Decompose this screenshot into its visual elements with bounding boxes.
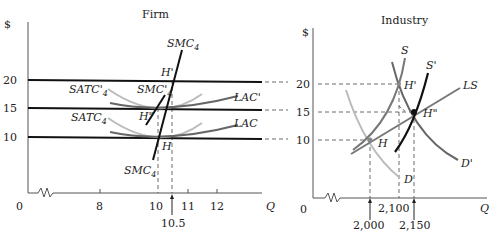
firm-y-axis-label: $ <box>4 18 11 31</box>
smc4-top-label: SMC4 <box>167 37 199 52</box>
firm-x-tick-11: 11 <box>181 200 195 213</box>
industry-y-tick-20: 20 <box>296 78 310 91</box>
point-h-dprime <box>411 109 417 115</box>
point-h <box>368 138 373 143</box>
firm-x-tick-8: 8 <box>96 200 103 213</box>
smc4-prime-label: SMC'4 <box>137 83 172 98</box>
industry-y-tick-10: 10 <box>296 134 310 147</box>
industry-y-tick-15: 15 <box>296 106 310 119</box>
industry-x-marker-2150: 2,150 <box>399 219 431 232</box>
point-h-prime <box>397 82 401 86</box>
industry-y-axis-label: $ <box>302 26 309 39</box>
d-prime-label: D' <box>460 157 473 170</box>
firm-y-tick-20: 20 <box>3 74 17 87</box>
firm-y-tick-15: 15 <box>3 102 17 115</box>
satc4-prime-label: SATC'4 <box>69 83 108 98</box>
lac-prime-label: LAC' <box>233 91 261 104</box>
firm-x-tick-10: 10 <box>149 200 163 213</box>
s-prime-label: S' <box>426 59 437 72</box>
firm-panel: Firm $ SMC4 H' SATC'4 S <box>3 8 275 230</box>
lac-label: LAC <box>233 117 258 130</box>
firm-x-tick-12: 12 <box>210 200 224 213</box>
long-run-supply-ls <box>351 88 460 154</box>
industry-h-prime-label: H' <box>403 79 417 92</box>
firm-industry-diagram: Firm $ SMC4 H' SATC'4 S <box>0 0 497 237</box>
firm-x-marker-105: 10.5 <box>161 217 186 230</box>
industry-h-dprime-label: H" <box>422 107 438 120</box>
industry-origin: 0 <box>300 203 307 216</box>
industry-x-tick-2100: 2,100 <box>378 202 410 215</box>
s-label: S <box>401 44 409 57</box>
ls-label: LS <box>462 79 478 92</box>
industry-panel: Industry $ S S' LS H' H" H <box>296 14 489 232</box>
industry-h-label: H <box>377 137 388 150</box>
smc4-bottom-label: SMC4 <box>124 164 156 179</box>
h-label: H <box>161 140 172 153</box>
firm-price-line-20 <box>28 80 262 82</box>
industry-title: Industry <box>381 14 429 27</box>
industry-x-marker-2000: 2,000 <box>353 219 385 232</box>
firm-x-axis-label: Q <box>266 200 275 213</box>
industry-x-axis-break <box>313 193 487 202</box>
firm-origin: 0 <box>16 200 23 213</box>
industry-x-axis-label: Q <box>480 202 489 215</box>
h-prime-label: H' <box>160 66 174 79</box>
satc4-label: SATC4 <box>71 111 107 126</box>
firm-x-axis-break <box>28 188 262 197</box>
d-label: D <box>403 173 413 186</box>
h-dprime-label: H" <box>138 110 154 123</box>
firm-title: Firm <box>142 8 169 21</box>
firm-y-tick-10: 10 <box>3 131 17 144</box>
